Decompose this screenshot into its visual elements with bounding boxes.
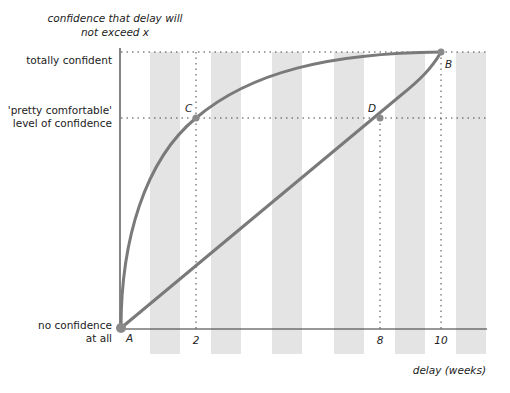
background-stripes — [150, 52, 486, 354]
point-a-marker — [116, 323, 126, 333]
y-label-pretty-comfortable-line1: 'pretty comfortable' — [0, 104, 112, 117]
point-b-marker — [438, 49, 445, 56]
y-label-no-confidence-line1: no confidence — [0, 319, 112, 332]
point-d-marker — [377, 115, 384, 122]
point-b-label: B — [445, 58, 452, 71]
point-a-label: A — [126, 332, 133, 345]
y-axis-title-line2: not exceed x — [40, 26, 190, 39]
point-c-label: C — [185, 102, 192, 115]
point-d-label: D — [368, 102, 376, 115]
y-label-no-confidence-line2: at all — [0, 332, 112, 345]
x-tick-2: 2 — [186, 334, 206, 347]
y-label-totally-confident: totally confident — [0, 54, 112, 67]
x-tick-10: 10 — [429, 334, 453, 347]
y-label-pretty-comfortable-line2: level of confidence — [0, 117, 112, 130]
x-tick-8: 8 — [370, 334, 390, 347]
y-axis-title-line1: confidence that delay will — [40, 12, 190, 25]
point-c-marker — [193, 115, 200, 122]
x-axis-title: delay (weeks) — [380, 364, 486, 377]
